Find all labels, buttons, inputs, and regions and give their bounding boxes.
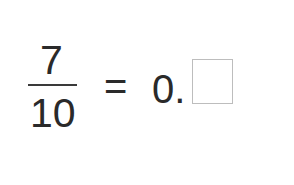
fraction-bar — [28, 84, 77, 86]
answer-input-box[interactable] — [192, 59, 233, 104]
fraction-numerator: 7 — [40, 40, 63, 81]
equals-sign: = — [104, 66, 127, 106]
decimal-prefix: 0. — [152, 69, 185, 109]
fraction-denominator: 10 — [30, 93, 76, 134]
